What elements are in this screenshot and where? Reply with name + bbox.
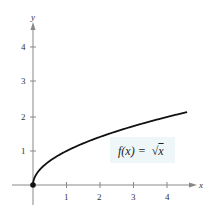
x-tick-label-1: 1 [64,193,69,202]
origin-point [30,182,36,188]
plot-svg [0,0,211,217]
x-axis-label: x [199,181,203,190]
function-name: f(x) = [118,144,146,158]
y-axis-arrow-icon [31,22,36,30]
sqrt-symbol: √ [149,144,159,158]
chart-area: y x 1 2 3 4 1 2 3 4 f(x) = √x [0,0,211,217]
sqrt-argument: x [158,144,163,158]
y-tick-label-4: 4 [21,43,26,52]
x-tick-label-3: 3 [131,193,136,202]
x-tick-label-4: 4 [165,193,170,202]
y-tick-label-2: 2 [21,113,26,122]
y-tick-label-3: 3 [21,77,26,86]
y-tick-label-1: 1 [21,147,26,156]
y-axis-label: y [31,13,35,22]
function-label: f(x) = √x [118,144,164,159]
x-tick-label-2: 2 [97,193,102,202]
x-axis-arrow-icon [189,183,197,188]
